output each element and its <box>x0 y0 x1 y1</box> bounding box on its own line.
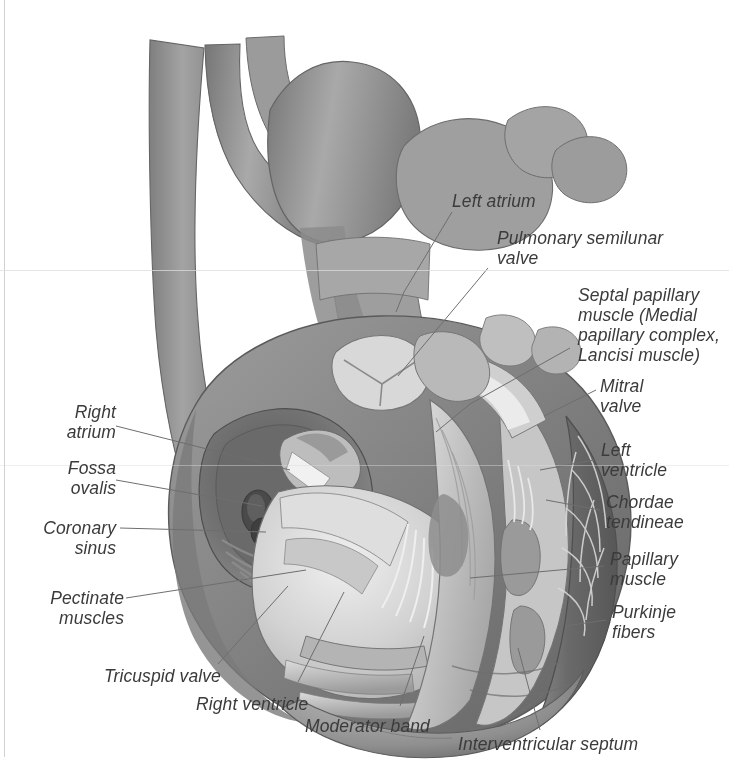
label-tricuspid-valve: Tricuspid valve <box>104 666 221 686</box>
label-pectinate-muscles: Pectinate muscles <box>14 588 124 628</box>
label-pulmonary-semilunar-valve: Pulmonary semilunar valve <box>497 228 689 268</box>
label-interventricular-septum: Interventricular septum <box>458 734 638 754</box>
label-mitral-valve: Mitral valve <box>600 376 729 416</box>
label-septal-papillary-muscle: Septal papillary muscle (Medial papillar… <box>578 285 729 365</box>
label-purkinje-fibers: Purkinje fibers <box>612 602 729 642</box>
label-fossa-ovalis: Fossa ovalis <box>20 458 116 498</box>
label-right-ventricle: Right ventricle <box>196 694 308 714</box>
heart-anatomy-figure: Left atrium Pulmonary semilunar valve Se… <box>0 0 729 773</box>
heart-body <box>169 315 631 758</box>
label-chordae-tendineae: Chordae tendineae <box>606 492 729 532</box>
label-left-atrium: Left atrium <box>452 191 536 211</box>
label-papillary-muscle: Papillary muscle <box>610 549 729 589</box>
label-left-ventricle: Left ventricle <box>601 440 729 480</box>
label-right-atrium: Right atrium <box>20 402 116 442</box>
scan-artifact-horizontal-upper <box>0 270 729 271</box>
label-moderator-band: Moderator band <box>305 716 430 736</box>
scan-artifact-vertical <box>4 0 5 757</box>
label-coronary-sinus: Coronary sinus <box>14 518 116 558</box>
